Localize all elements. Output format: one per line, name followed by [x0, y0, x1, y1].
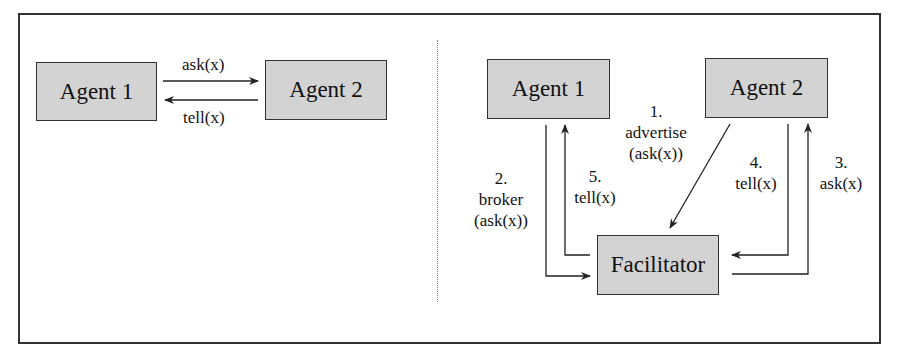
ask-label: ask(x) — [182, 54, 224, 75]
step2-num: 2. — [466, 168, 536, 189]
step3-num: 3. — [813, 152, 869, 173]
step5-label: 5. tell(x) — [570, 166, 620, 208]
step1-label: 1. advertise (ask(x)) — [616, 101, 696, 164]
step5-num: 5. — [570, 166, 620, 187]
step2-label: 2. broker (ask(x)) — [466, 168, 536, 231]
step3-label: 3. ask(x) — [813, 152, 869, 194]
right-agent1-box: Agent 1 — [487, 59, 610, 119]
step3-text: ask(x) — [813, 173, 869, 194]
step1-arg: (ask(x)) — [616, 143, 696, 164]
step4-num: 4. — [729, 152, 783, 173]
tell-label: tell(x) — [183, 107, 225, 128]
left-agent2-box: Agent 2 — [265, 60, 387, 120]
step4-label: 4. tell(x) — [729, 152, 783, 194]
step1-text: advertise — [616, 122, 696, 143]
step5-text: tell(x) — [570, 187, 620, 208]
step2-text: broker — [466, 189, 536, 210]
step2-arg: (ask(x)) — [466, 210, 536, 231]
ask3-arrow — [732, 124, 808, 274]
left-agent1-box: Agent 1 — [36, 62, 157, 121]
right-agent2-box: Agent 2 — [705, 58, 828, 118]
facilitator-box: Facilitator — [597, 235, 719, 295]
step1-num: 1. — [616, 101, 696, 122]
step4-text: tell(x) — [729, 173, 783, 194]
